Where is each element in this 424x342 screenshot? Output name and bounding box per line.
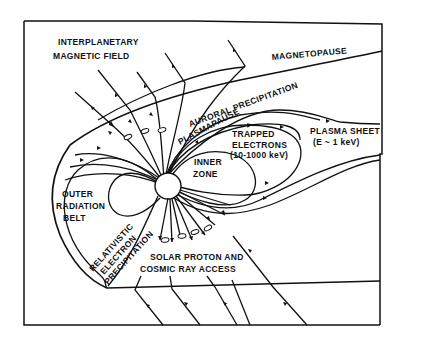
southern-arrows: [158, 210, 225, 242]
trapped-label-line2: ELECTRONS: [232, 140, 287, 150]
imf-label-line1: INTERPLANETARY: [58, 37, 139, 47]
earth-circle: [155, 173, 181, 199]
imf-label-line2: MAGNETIC FIELD: [53, 51, 129, 61]
solar-label-line2: COSMIC RAY ACCESS: [140, 264, 236, 274]
inner-zone-label-line1: INNER: [194, 157, 222, 167]
outer-belt-label-line1: OUTER: [62, 189, 93, 199]
outer-belt-label-line3: BELT: [63, 213, 86, 223]
magnetopause-label: MAGNETOPAUSE: [271, 45, 347, 62]
plasma-sheet-label-line2: (E ~ 1 keV): [313, 137, 360, 147]
plasma-sheet-label-line1: PLASMA SHEET: [310, 126, 380, 136]
trapped-label-line1: TRAPPED: [232, 129, 275, 139]
auroral-label: AURORAL PRECIPITATION: [187, 80, 299, 129]
trapped-label-line3: (10-1000 keV): [230, 150, 288, 160]
magnetosphere-diagram: INTERPLANETARY MAGNETIC FIELD MAGNETOPAU…: [0, 0, 424, 342]
cosmic-ray-lines: [135, 236, 307, 325]
inner-zone-label-line2: ZONE: [193, 169, 218, 179]
solar-label-line1: SOLAR PROTON AND: [150, 252, 244, 262]
outer-belt-label-line2: RADIATION: [56, 201, 105, 211]
